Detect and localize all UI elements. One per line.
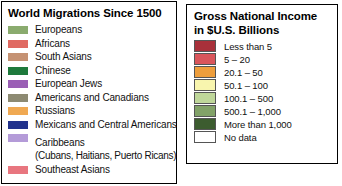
legend-item-europeans: Europeans [8, 24, 172, 36]
legend-item-caribbeans: Caribbeans (Cubans, Haitians, Puerto Ric… [8, 132, 172, 162]
legend-item-americans-and-canadians: Americans and Canadians [8, 92, 172, 104]
gni-item-no-data: No data [194, 131, 333, 143]
color-swatch-americans-and-canadians [8, 94, 28, 102]
map-legend-container: World Migrations Since 1500 Europeans Af… [0, 0, 342, 186]
legend-label-southeast-asians: Southeast Asians [35, 164, 110, 176]
color-swatch-gni-less-than-5 [194, 40, 216, 52]
color-swatch-caribbeans [8, 134, 28, 142]
color-swatch-africans [8, 40, 28, 48]
gni-label-100-to-500: 100.1 – 500 [224, 93, 273, 104]
color-swatch-gni-50-to-100 [194, 79, 216, 91]
legend-label-russians: Russians [35, 105, 75, 117]
color-swatch-gni-no-data [194, 131, 216, 143]
legend-item-russians: Russians [8, 105, 172, 117]
gni-label-5-to-20: 5 – 20 [224, 54, 250, 65]
gni-label-20-to-50: 20.1 – 50 [224, 67, 263, 78]
gni-item-20-to-50: 20.1 – 50 [194, 66, 333, 78]
gni-label-more-than-1000: More than 1,000 [224, 119, 292, 130]
gni-item-5-to-20: 5 – 20 [194, 53, 333, 65]
legend-item-chinese: Chinese [8, 65, 172, 77]
color-swatch-gni-20-to-50 [194, 66, 216, 78]
gni-legend-title-line2: in $U.S. Billions [194, 24, 333, 38]
legend-label-mexicans-and-central-americans: Mexicans and Central Americans [35, 119, 177, 131]
gni-item-100-to-500: 100.1 – 500 [194, 92, 333, 104]
color-swatch-gni-500-to-1000 [194, 105, 216, 117]
color-swatch-gni-5-to-20 [194, 53, 216, 65]
gni-item-500-to-1000: 500.1 – 1,000 [194, 105, 333, 117]
legend-label-europeans: Europeans [35, 24, 82, 36]
legend-label-americans-and-canadians: Americans and Canadians [35, 92, 149, 104]
world-migrations-legend: World Migrations Since 1500 Europeans Af… [1, 1, 177, 184]
gni-legend-title: Gross National Income in $U.S. Billions [194, 10, 333, 37]
color-swatch-europeans [8, 26, 28, 34]
legend-label-chinese: Chinese [35, 65, 71, 77]
gni-label-less-than-5: Less than 5 [224, 41, 272, 52]
legend-item-european-jews: European Jews [8, 78, 172, 90]
legend-label-africans: Africans [35, 38, 70, 50]
gni-legend-title-line1: Gross National Income [194, 10, 333, 24]
legend-label-caribbeans: Caribbeans [35, 137, 85, 148]
color-swatch-southeast-asians [8, 166, 28, 174]
gni-label-50-to-100: 50.1 – 100 [224, 80, 268, 91]
legend-label-caribbeans-group: Caribbeans (Cubans, Haitians, Puerto Ric… [35, 132, 176, 162]
color-swatch-mexicans-and-central-americans [8, 121, 28, 129]
gni-label-500-to-1000: 500.1 – 1,000 [224, 106, 281, 117]
legend-sublabel-caribbeans: (Cubans, Haitians, Puerto Ricans) [35, 150, 176, 162]
color-swatch-gni-more-than-1000 [194, 118, 216, 130]
legend-item-southeast-asians: Southeast Asians [8, 164, 172, 176]
color-swatch-european-jews [8, 80, 28, 88]
color-swatch-russians [8, 107, 28, 115]
color-swatch-gni-100-to-500 [194, 92, 216, 104]
legend-label-european-jews: European Jews [35, 78, 102, 90]
gni-item-50-to-100: 50.1 – 100 [194, 79, 333, 91]
gni-item-more-than-1000: More than 1,000 [194, 118, 333, 130]
gni-item-less-than-5: Less than 5 [194, 40, 333, 52]
legend-item-mexicans-and-central-americans: Mexicans and Central Americans [8, 119, 172, 131]
migrations-legend-title: World Migrations Since 1500 [8, 7, 172, 20]
color-swatch-south-asians [8, 53, 28, 61]
legend-label-south-asians: South Asians [35, 51, 92, 63]
legend-item-south-asians: South Asians [8, 51, 172, 63]
gross-national-income-legend: Gross National Income in $U.S. Billions … [186, 4, 338, 164]
legend-item-africans: Africans [8, 38, 172, 50]
color-swatch-chinese [8, 67, 28, 75]
gni-label-no-data: No data [224, 132, 257, 143]
